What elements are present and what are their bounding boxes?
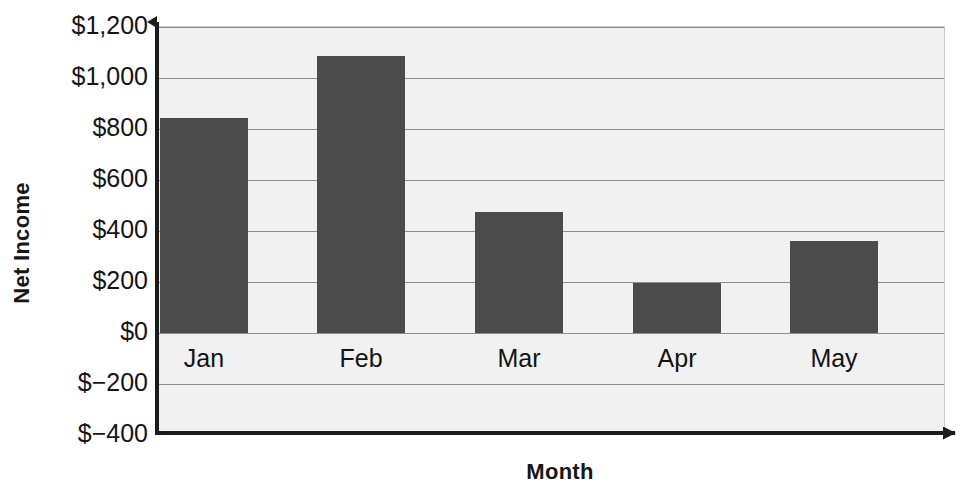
y-tick-label: $200 (92, 268, 148, 293)
bars-layer (158, 27, 944, 433)
bar-feb[interactable] (317, 56, 405, 333)
y-tick-label: $1,000 (72, 64, 148, 89)
bar-apr[interactable] (633, 283, 721, 333)
bar-jan[interactable] (160, 118, 248, 333)
bar-mar[interactable] (475, 212, 563, 333)
x-tick-label-may: May (760, 346, 908, 371)
y-tick-label: $1,200 (72, 13, 148, 38)
y-axis-title-text: Net Income (9, 182, 35, 304)
y-tick-label: $0 (120, 319, 148, 344)
bar-chart: Net Income $1,200$1,000$800$600$400$200$… (0, 0, 975, 495)
y-tick-label: $800 (92, 115, 148, 140)
y-tick-label: $600 (92, 166, 148, 191)
y-tick-label: $−200 (78, 370, 148, 395)
y-tick-label: $400 (92, 217, 148, 242)
x-tick-label-apr: Apr (603, 346, 751, 371)
bar-may[interactable] (790, 241, 878, 333)
x-tick-label-mar: Mar (445, 346, 593, 371)
x-axis-title: Month (460, 459, 660, 485)
x-tick-label-jan: Jan (157, 346, 278, 371)
x-tick-label-feb: Feb (287, 346, 435, 371)
y-axis-tick-labels: $1,200$1,000$800$600$400$200$0$−200$−400 (36, 0, 148, 495)
plot-area: JanFebMarAprMay (157, 26, 945, 434)
y-tick-label: $−400 (78, 421, 148, 446)
